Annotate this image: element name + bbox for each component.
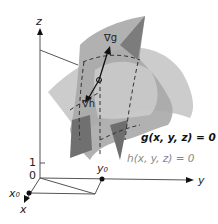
point-x0 — [27, 191, 32, 196]
z-tick-label: 1 — [29, 157, 36, 168]
x0-label: x₀ — [9, 188, 20, 199]
grad-g-label: ∇g — [104, 33, 117, 43]
origin-label: 0 — [29, 170, 36, 181]
surface-g-equation: g(x, y, z) = 0 — [141, 132, 216, 143]
projection-to-point — [40, 50, 78, 65]
x-axis-arrow — [24, 195, 30, 203]
y-axis — [40, 178, 190, 180]
y-axis-arrow — [186, 177, 194, 183]
y0-label: y₀ — [97, 163, 108, 174]
surface-h-equation: h(x, y, z) = 0 — [127, 153, 194, 164]
projection-base-x — [29, 193, 95, 194]
point-y0 — [100, 177, 105, 182]
grad-h-label: ∇h — [82, 99, 95, 109]
y-axis-label: y — [198, 175, 205, 186]
surface-highlight — [94, 62, 158, 119]
level-surfaces-diagram: z y x 0 1 x₀ y₀ ∇g ∇h g(x, y, z) = 0 h(x… — [0, 0, 218, 224]
z-axis-arrow — [37, 28, 43, 35]
projection-base-diag — [40, 178, 95, 194]
z-axis-label: z — [36, 16, 42, 27]
x-axis-label: x — [20, 204, 27, 215]
